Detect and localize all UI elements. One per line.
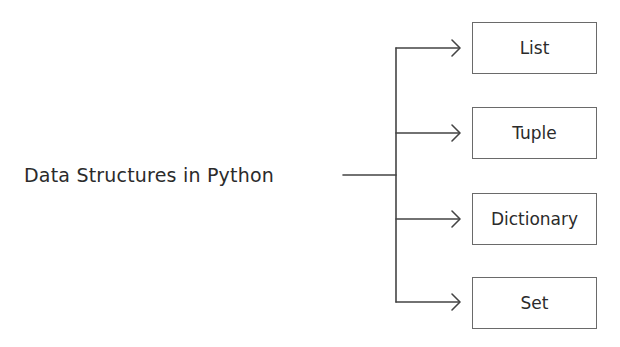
node-label: Set	[521, 293, 549, 313]
arrow-tuple	[396, 125, 460, 141]
arrow-list	[396, 40, 460, 56]
node-label: List	[520, 38, 550, 58]
node-label: Dictionary	[491, 209, 578, 229]
node-tuple: Tuple	[472, 107, 597, 159]
node-label: Tuple	[512, 123, 557, 143]
node-list: List	[472, 22, 597, 74]
node-set: Set	[472, 277, 597, 329]
arrow-dictionary	[396, 211, 460, 227]
node-dictionary: Dictionary	[472, 193, 597, 245]
arrow-set	[396, 294, 460, 310]
